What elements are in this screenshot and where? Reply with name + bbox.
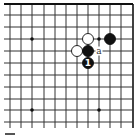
move-number-label: 1 bbox=[85, 58, 91, 68]
star-point bbox=[30, 108, 34, 112]
star-point bbox=[30, 37, 34, 41]
white-stone bbox=[72, 46, 83, 57]
black-stone bbox=[105, 34, 116, 45]
star-point bbox=[97, 108, 101, 112]
point-label-a: a bbox=[96, 46, 102, 56]
board-markers: a bbox=[96, 46, 103, 56]
grid-lines bbox=[4, 4, 133, 128]
caption-mark bbox=[5, 133, 15, 135]
star-point bbox=[97, 37, 101, 41]
go-board: a 1 bbox=[0, 0, 137, 135]
white-stone bbox=[83, 34, 94, 45]
black-stone bbox=[83, 46, 94, 57]
